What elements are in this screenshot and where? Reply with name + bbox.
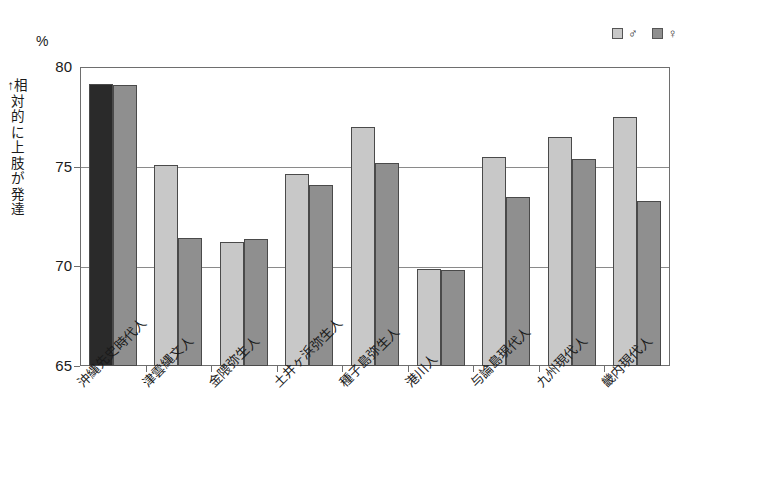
bar-male-6 (482, 157, 506, 366)
legend-entry-female: ♀ (652, 27, 678, 40)
y-tick-mark-65 (74, 366, 80, 367)
y-tick-label-75: 75 (32, 159, 72, 174)
bar-male-0 (89, 84, 113, 366)
legend-entry-male: ♂ (612, 27, 638, 40)
bar-female-7 (572, 159, 596, 366)
bar-male-8 (613, 117, 637, 366)
bar-male-7 (548, 137, 572, 366)
bar-male-3 (285, 174, 309, 366)
legend-label-female: ♀ (668, 27, 678, 40)
bar-chart: ♂ ♀ % ↑相対的に上肢が発達 65707580 沖縄先史時代人津雲縄文人金隈… (0, 0, 757, 477)
chart-legend: ♂ ♀ (612, 24, 678, 42)
bar-male-1 (154, 165, 178, 366)
bar-male-4 (351, 127, 375, 366)
bar-female-5 (441, 270, 465, 366)
y-tick-label-65: 65 (32, 358, 72, 373)
bars-layer (80, 67, 670, 366)
legend-swatch-male (612, 28, 623, 39)
y-axis-unit-label: % (36, 33, 48, 49)
legend-label-male: ♂ (628, 27, 638, 40)
y-axis-title: ↑相対的に上肢が発達 (6, 78, 28, 218)
legend-swatch-female (652, 28, 663, 39)
y-tick-label-70: 70 (32, 258, 72, 273)
y-tick-label-80: 80 (32, 59, 72, 74)
